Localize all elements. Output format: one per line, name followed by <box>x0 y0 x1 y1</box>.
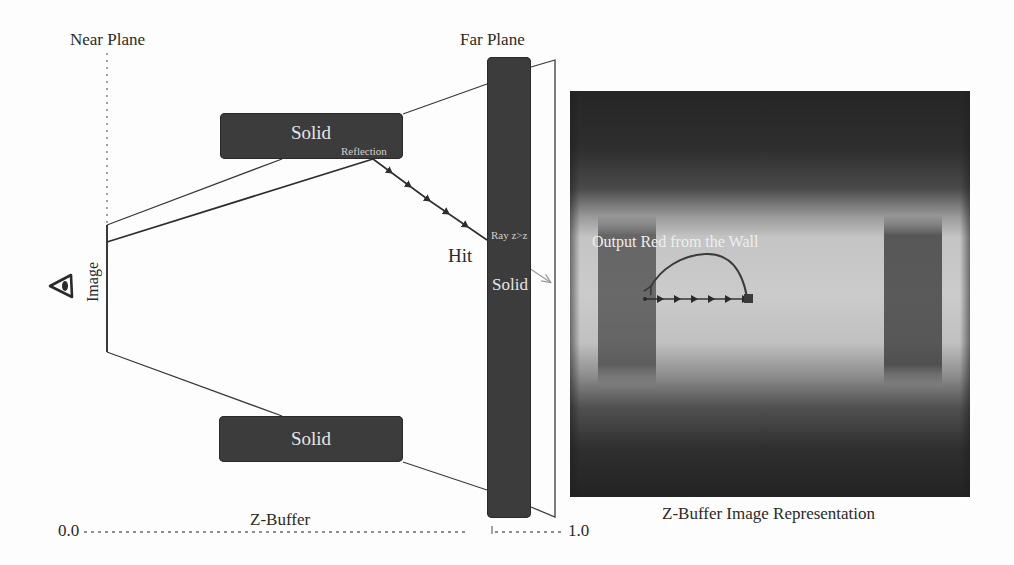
far-plane-label: Far Plane <box>460 30 525 50</box>
bottom-solid-label: Solid <box>291 428 331 450</box>
frustum-top-edge-far <box>403 84 487 114</box>
camera-ray <box>107 159 373 242</box>
eye-icon <box>50 275 72 297</box>
frustum-bottom-edge <box>107 352 282 416</box>
far-solid-label: Solid <box>492 275 528 295</box>
top-solid-label: Solid <box>291 122 331 144</box>
axis-min-label: 0.0 <box>58 521 79 541</box>
image-plane-label: Image <box>84 262 102 302</box>
bottom-solid: Solid <box>219 416 403 462</box>
axis-max-label: 1.0 <box>568 521 589 541</box>
far-solid: Ray z>z Solid <box>487 57 531 518</box>
diagram-stage: Near Plane Far Plane Image Hit Solid Ref… <box>0 0 1014 565</box>
reflected-ray <box>373 159 487 240</box>
image-ray-march <box>570 91 970 497</box>
zbuffer-image-caption: Z-Buffer Image Representation <box>662 504 875 524</box>
reflection-label: Reflection <box>341 145 387 157</box>
near-plane-label: Near Plane <box>70 30 145 50</box>
top-solid: Solid Reflection <box>220 113 403 159</box>
zbuffer-image: Output Red from the Wall <box>570 91 970 497</box>
ray-test-label: Ray z>z <box>491 229 527 241</box>
zbuffer-axis-label: Z-Buffer <box>250 510 310 530</box>
frustum-bottom-edge-far <box>403 462 487 490</box>
hit-label: Hit <box>448 245 472 267</box>
far-plane-outline <box>531 60 555 517</box>
